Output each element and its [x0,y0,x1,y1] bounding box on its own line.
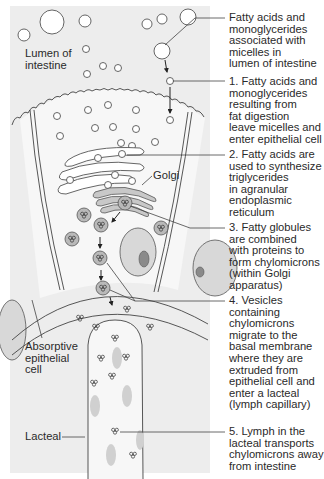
label-lumen: Lumen of intestine [25,48,72,71]
annotation-step-1: 1. Fatty acids and monoglycerides result… [229,76,322,146]
annotation-step-3: 3. Fatty globules are combined with prot… [229,222,320,292]
annotation-step-2: 2. Fatty acids are used to synthesize tr… [229,149,322,219]
label-lacteal: Lacteal [25,431,61,443]
annotation-step-5: 5. Lymph in the lacteal transports chylo… [229,426,324,472]
annotation-step-4: 4. Vesicles containing chylomicrons migr… [229,295,315,411]
label-golgi: Golgi [153,170,179,182]
nucleus [120,228,156,276]
label-absorptive-cell: Absorptive epithelial cell [25,341,78,376]
annotation-micelles: Fatty acids and monoglycerides associate… [229,12,317,70]
